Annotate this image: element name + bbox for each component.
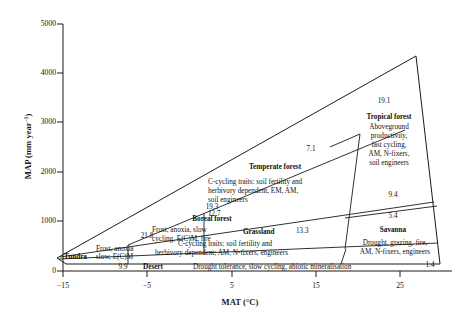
biome-traits-tropical-line5: soil engineers (357, 159, 421, 167)
biome-traits-tropical-line3: fast cycling, (357, 141, 421, 149)
biome-label-temperate-forest: Temperate forest (215, 163, 335, 171)
y-axis-title-superscript: −1 (23, 117, 29, 123)
biome-traits-grassland-line1: C-cycling traits: soil fertility and (178, 240, 272, 248)
biome-value-temperate-secondary: 12.7 (208, 210, 221, 218)
x-tick-label-m5: −5 (132, 281, 162, 290)
biome-traits-temperate-line3: soil engineers (208, 196, 248, 204)
x-tick-label-m15: −15 (48, 281, 78, 290)
biome-traits-savanna-line2: AM, N-fixers, engineers (345, 248, 445, 256)
biome-value-tropical: 19.1 (369, 97, 399, 105)
biome-label-desert: Desert (143, 263, 163, 271)
biome-label-tundra: Tundra (64, 253, 87, 261)
y-axis-title: MAP (mm year−1) (23, 76, 34, 216)
biome-value-grassland: 13.3 (296, 227, 309, 235)
biome-traits-tropical-line2: productivity, (357, 132, 421, 140)
biome-label-tropical-forest: Tropical forest (357, 113, 421, 121)
biome-label-grassland: Grassland (243, 228, 275, 236)
x-tick-label-5: 5 (217, 281, 247, 290)
x-axis-title: MAT (°C) (180, 297, 300, 307)
biome-value-desert-secondary: 1.4 (415, 261, 445, 269)
y-axis-title-end: ) (23, 114, 33, 117)
biome-value-savanna-upper: 9.4 (378, 191, 408, 199)
biome-traits-temperate-line1: C-cycling traits: soil fertility and (208, 178, 302, 186)
biome-label-savanna: Savanna (355, 226, 431, 234)
biome-value-temperate: 7.1 (296, 145, 326, 153)
biome-traits-savanna-line1: Drought, grazing, fire, (347, 239, 443, 247)
biome-traits-temperate-line2: herbivory dependent, EM, AM, (208, 187, 298, 195)
biome-traits-grassland-line2: herbivory dependent; AM, N-fixers, engin… (155, 249, 288, 257)
biome-traits-tundra-line1: Frost, anoxia (96, 245, 134, 253)
biome-traits-tropical-line4: AM, N-fixers, (357, 150, 421, 158)
y-axis-title-main: MAP (mm year (23, 122, 33, 179)
x-tick-label-15: 15 (301, 281, 331, 290)
biome-traits-tundra-line2: slow, E(C)M (96, 253, 133, 261)
chart-figure: 5000 4000 3000 2000 1000 0 −15 −5 5 15 2… (0, 0, 460, 318)
biome-value-savanna: 5.4 (378, 212, 408, 220)
x-tick-label-25: 25 (385, 281, 415, 290)
biome-traits-boreal-line1: Frost, anoxia, slow (152, 226, 207, 234)
y-tick-label-1000: 1000 (22, 216, 56, 225)
y-tick-label-5000: 5000 (22, 19, 56, 28)
biome-value-desert: 9.9 (108, 263, 138, 271)
boundary-tropical-left (330, 134, 360, 147)
biome-traits-tropical-line1: Aboveground (357, 123, 421, 131)
biome-traits-desert: Drought tolerance, slow cycling, abiotic… (193, 263, 351, 271)
y-tick-label-0: 0 (22, 266, 56, 275)
